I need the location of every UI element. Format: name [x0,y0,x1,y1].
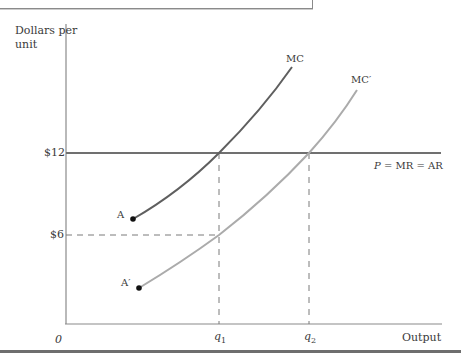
bottom-rule [0,350,461,353]
x-tick-q1: q1 [214,330,226,347]
point-a-label: A [117,208,124,221]
point-a-prime [136,285,142,291]
x-tick-q2: q2 [304,330,316,347]
x-axis-label: Output [402,331,441,344]
mc-prime-curve [139,90,357,288]
price-p: P [374,160,381,171]
mc-label: MC [286,52,304,65]
q1-sub: 1 [221,336,226,345]
y-axis-label-line2: unit [15,38,65,52]
price-rest: = MR = AR [381,160,443,171]
point-a-prime-label: A′ [121,276,131,289]
origin-label: 0 [55,333,62,346]
q2-sub: 2 [311,336,316,345]
chart-canvas [0,0,461,360]
q2-base: q [304,330,311,343]
price-line-label: P = MR = AR [374,159,443,172]
point-a [130,216,136,222]
y-axis-label-line1: Dollars per [15,24,65,38]
y-axis-label: Dollars per unit [15,24,65,52]
mc-curve [133,67,292,219]
y-tick-6: $6 [50,228,64,241]
mc-prime-label: MC′ [351,73,371,86]
q1-base: q [214,330,221,343]
y-tick-12: $12 [44,146,65,159]
